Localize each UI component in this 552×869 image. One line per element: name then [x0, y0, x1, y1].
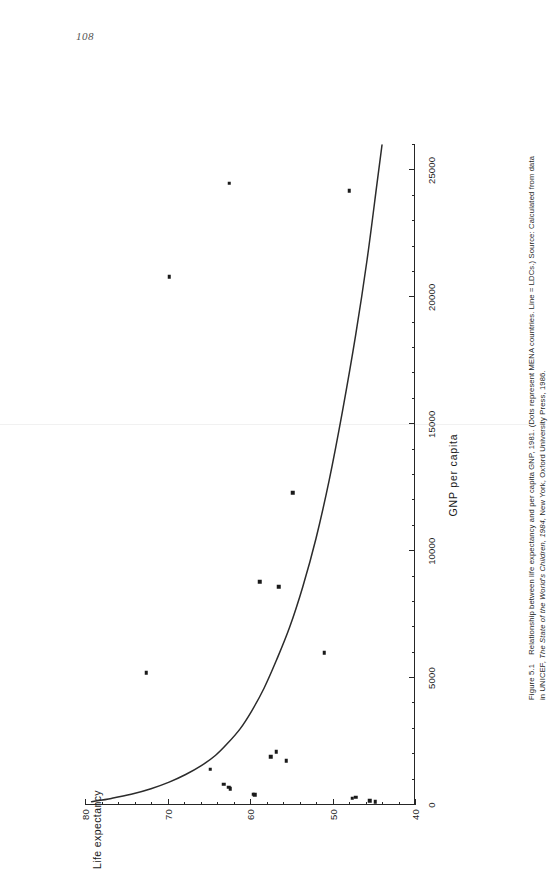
- figure-caption: Figure 5.1Relationship between life expe…: [526, 0, 552, 700]
- y-tick-label: 70: [162, 809, 173, 831]
- data-point: [144, 671, 148, 675]
- data-point: [277, 585, 281, 589]
- y-tick-label: 80: [80, 809, 91, 831]
- y-tick-label: 60: [245, 809, 256, 831]
- x-tick-label: 0: [426, 802, 437, 807]
- data-point: [275, 750, 279, 754]
- data-point: [374, 800, 378, 804]
- y-tick-label: 40: [410, 809, 421, 831]
- x-tick-label: 15000: [426, 411, 437, 438]
- data-point: [347, 189, 351, 193]
- data-point: [323, 651, 327, 655]
- caption-source-title: The State of the World's Children, 1984,: [538, 518, 547, 659]
- ldc-fit-curve: [85, 145, 415, 805]
- plot-area: 0500010000150002000025000 4050607080 GNP…: [85, 145, 415, 805]
- data-point: [167, 275, 171, 279]
- data-point: [228, 787, 232, 791]
- caption-text-2a: in UNICEF,: [538, 659, 547, 700]
- caption-line-1: Figure 5.1Relationship between life expe…: [526, 0, 537, 700]
- data-point: [253, 793, 257, 797]
- data-point: [258, 580, 262, 584]
- x-axis-title: GNP per capita: [447, 434, 459, 517]
- data-point: [354, 795, 358, 799]
- data-point: [351, 797, 355, 801]
- caption-text-2b: New York, Oxford University Press, 1986.: [538, 370, 547, 518]
- data-point: [269, 755, 273, 759]
- x-tick-label: 20000: [426, 284, 437, 311]
- y-tick-major: [415, 799, 416, 805]
- data-point: [222, 782, 226, 786]
- chart-canvas: 0500010000150002000025000 4050607080 GNP…: [85, 145, 415, 805]
- x-tick-label: 25000: [426, 157, 437, 184]
- x-tick-label: 5000: [426, 667, 437, 689]
- x-tick-label: 10000: [426, 537, 437, 564]
- figure-number: Figure 5.1: [527, 664, 536, 700]
- caption-text-1: Relationship between life expectancy and…: [527, 156, 536, 655]
- data-point: [368, 799, 372, 803]
- data-point: [209, 768, 213, 772]
- y-tick-label: 50: [327, 809, 338, 831]
- caption-line-2: in UNICEF, The State of the World's Chil…: [537, 0, 548, 700]
- data-point: [291, 491, 295, 495]
- data-point: [285, 759, 289, 763]
- data-point: [228, 181, 232, 185]
